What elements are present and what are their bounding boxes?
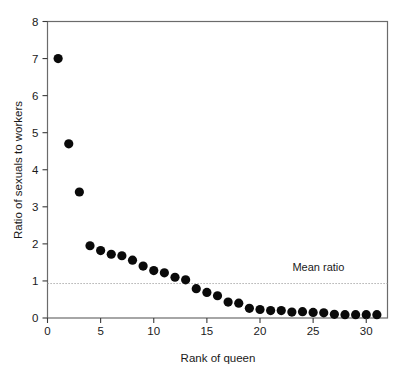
y-tick-label: 4	[32, 164, 39, 176]
x-tick-label: 15	[200, 325, 213, 337]
data-point	[170, 273, 179, 282]
data-point	[213, 291, 222, 300]
data-point	[181, 275, 190, 284]
data-point	[340, 310, 349, 319]
data-point	[160, 268, 169, 277]
data-point	[128, 256, 137, 265]
y-tick-label: 2	[32, 238, 38, 250]
y-axis-title: Ratio of sexuals to workers	[12, 101, 24, 239]
x-tick-label: 25	[307, 325, 320, 337]
data-point	[319, 308, 328, 317]
y-tick-label: 5	[32, 127, 38, 139]
data-point	[54, 54, 63, 63]
data-point	[96, 246, 105, 255]
y-tick-label: 8	[32, 16, 38, 28]
data-point	[277, 306, 286, 315]
data-point	[309, 308, 318, 317]
chart-figure: 012345678 051015202530 Mean ratio Rank o…	[0, 0, 407, 376]
x-tick-label: 5	[97, 325, 103, 337]
data-point	[149, 266, 158, 275]
x-tick-label: 20	[254, 325, 267, 337]
x-tick-label: 30	[360, 325, 373, 337]
scatter-plot-canvas: 012345678 051015202530 Mean ratio Rank o…	[0, 0, 407, 376]
data-point	[245, 304, 254, 313]
data-point	[372, 310, 381, 319]
data-point	[202, 288, 211, 297]
y-tick-label: 3	[32, 201, 38, 213]
y-tick-label: 0	[32, 312, 38, 324]
data-point	[117, 251, 126, 260]
x-axis-title: Rank of queen	[181, 352, 256, 364]
data-point	[85, 241, 94, 250]
data-point	[107, 250, 116, 259]
data-point	[255, 305, 264, 314]
data-point	[287, 307, 296, 316]
data-point	[351, 310, 360, 319]
data-point	[330, 310, 339, 319]
data-point	[139, 262, 148, 271]
y-tick-label: 1	[32, 275, 38, 287]
data-point	[64, 139, 73, 148]
x-tick-label: 10	[147, 325, 160, 337]
data-point	[266, 306, 275, 315]
mean-ratio-label: Mean ratio	[292, 261, 344, 273]
data-point	[75, 187, 84, 196]
data-point	[298, 307, 307, 316]
y-tick-label: 7	[32, 53, 38, 65]
data-point	[234, 299, 243, 308]
data-point	[224, 297, 233, 306]
data-point	[192, 284, 201, 293]
data-point	[362, 310, 371, 319]
y-tick-label: 6	[32, 90, 38, 102]
x-tick-label: 0	[44, 325, 50, 337]
